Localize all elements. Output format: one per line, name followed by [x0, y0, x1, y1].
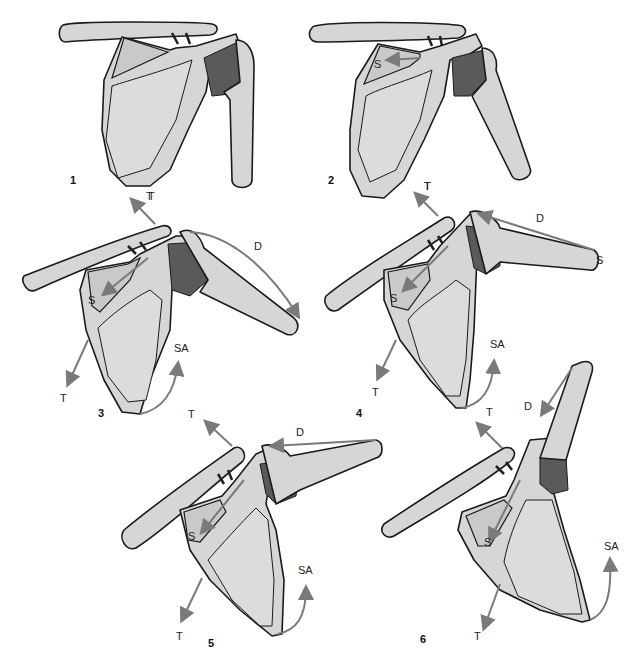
panel-number: 4 [356, 407, 363, 419]
label-trapezius: T [372, 386, 379, 398]
panel-number: 2 [328, 174, 334, 186]
label-serratus-anterior: SA [174, 342, 189, 354]
label-supraspinatus: S [188, 530, 195, 542]
panel-6: T D S SA T 6 [382, 361, 619, 645]
panel-5: T D S SA T 5 [122, 408, 382, 649]
label-deltoid: D [296, 426, 304, 438]
label-trapezius: T [486, 406, 493, 418]
label-serratus-anterior: SA [604, 540, 619, 552]
panel-number: 6 [420, 633, 426, 645]
panel-number: 1 [70, 174, 76, 186]
clavicle [310, 23, 466, 43]
panel-number: 5 [208, 637, 214, 649]
label-trapezius: T [146, 190, 153, 202]
label-trapezius: T [188, 408, 195, 420]
panel-1: 1 T [59, 22, 254, 202]
label-trapezius: T [424, 180, 431, 192]
label-trapezius: T [60, 392, 67, 404]
label-supraspinatus: S [374, 58, 381, 70]
panel-2: S 2 T [310, 23, 531, 199]
panel-3: T D S SA T 3 [23, 190, 298, 419]
label-supraspinatus-insertion: S [596, 254, 603, 266]
label-deltoid: D [254, 240, 262, 252]
label-trapezius: T [474, 630, 481, 642]
clavicle [59, 22, 217, 42]
label-supraspinatus: S [88, 294, 95, 306]
label-serratus-anterior: SA [490, 338, 505, 350]
label-serratus-anterior: SA [298, 564, 313, 576]
label-deltoid: D [536, 212, 544, 224]
panel-number: 3 [98, 407, 104, 419]
humerus [262, 440, 382, 504]
humerus [470, 211, 598, 274]
label-trapezius: T [176, 630, 183, 642]
shoulder-diagram: 1 T S 2 T T D S SA T 3 [0, 0, 634, 659]
label-deltoid: D [524, 400, 532, 412]
label-supraspinatus: S [390, 292, 397, 304]
label-supraspinatus: S [484, 536, 491, 548]
